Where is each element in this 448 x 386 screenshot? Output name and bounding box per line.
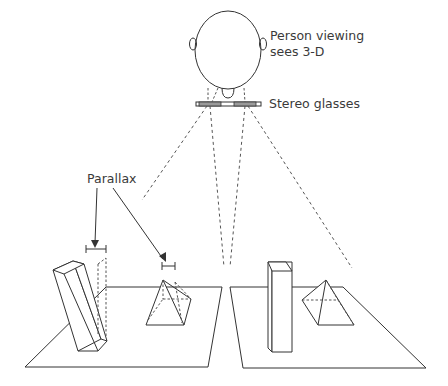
stereo-glasses [196, 102, 261, 106]
parallax-label: Parallax [87, 171, 136, 186]
stereo-diagram: Person viewing sees 3-D Stereo glasses P… [0, 0, 448, 386]
upright-prism-right [268, 262, 292, 352]
glasses-label: Stereo glasses [269, 96, 360, 111]
viewer-label-line2: sees 3-D [270, 44, 324, 59]
tilted-prism-left [53, 258, 107, 351]
left-image-plane [25, 287, 222, 367]
sight-lines [142, 106, 352, 268]
viewer-label-line1: Person viewing [270, 28, 364, 43]
parallax-arrows [91, 188, 166, 262]
viewer-head [190, 11, 267, 98]
